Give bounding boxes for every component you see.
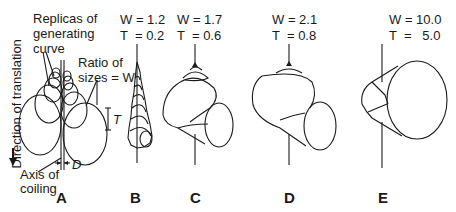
label-ratio-1: Ratio of: [78, 55, 123, 70]
panel-b-shell: [128, 44, 152, 163]
panel-d-shell: [252, 44, 336, 165]
label-replicas-1: Replicas of: [33, 11, 97, 26]
panel-d-w: W = 2.1: [272, 12, 317, 28]
panel-label-d: D: [284, 189, 295, 206]
label-replicas-3: curve: [33, 41, 65, 56]
label-replicas-2: generating: [33, 26, 94, 41]
panel-label-c: C: [190, 189, 201, 206]
panel-c-w: W = 1.7: [177, 12, 222, 28]
panel-label-b: B: [130, 189, 141, 206]
label-axis-1: Axis of: [20, 167, 59, 182]
label-d: D: [72, 157, 81, 172]
label-axis-2: coiling: [20, 181, 57, 196]
panel-e-t: T = 5.0: [389, 28, 440, 44]
panel-e-w: W = 10.0: [389, 12, 441, 28]
panel-c-shell: [163, 44, 233, 165]
label-ratio-2: sizes = W: [78, 70, 135, 85]
panel-label-e: E: [378, 189, 388, 206]
axis-label-direction-of-translation: Direction of translation: [9, 39, 24, 169]
panel-e-shell: [362, 44, 447, 168]
panel-c-t: T = 0.6: [177, 28, 221, 44]
panel-b-t: T = 0.2: [120, 28, 164, 44]
label-t: T: [113, 112, 121, 127]
panel-label-a: A: [56, 189, 67, 206]
panel-b-w: W = 1.2: [120, 12, 165, 28]
panel-d-t: T = 0.8: [272, 28, 316, 44]
